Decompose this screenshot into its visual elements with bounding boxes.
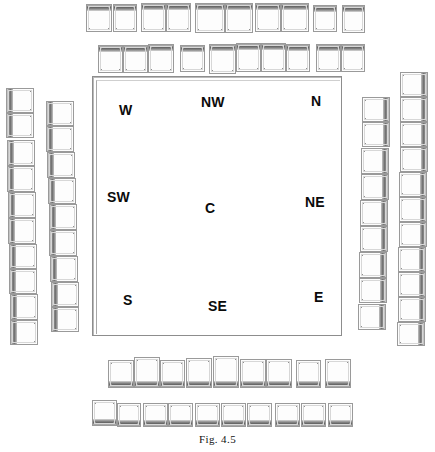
corner-marker [120,423,121,424]
figure-caption: Fig. 4.5 [0,433,435,445]
corner-marker [137,406,138,407]
corner-marker [268,406,269,407]
corner-marker [296,423,297,424]
corner-marker [198,423,199,424]
corner-marker [120,406,121,407]
corner-marker [224,423,225,424]
corner-marker [278,406,279,407]
corner-marker [322,423,323,424]
structure-cell [247,403,272,427]
figure-4-5: WNWNSWCNESSEE Fig. 4.5 [0,0,435,452]
structure-cell [92,400,117,426]
structure-cell [168,403,193,427]
corner-marker [349,423,350,424]
corner-marker [113,422,114,423]
corner-marker [331,423,332,424]
corner-marker [113,403,114,404]
corner-marker [250,423,251,424]
corner-marker [296,406,297,407]
corner-marker [164,406,165,407]
corner-marker [189,406,190,407]
corner-marker [304,406,305,407]
corner-marker [268,423,269,424]
structure-cell [143,403,168,427]
corner-marker [250,406,251,407]
corner-marker [171,423,172,424]
structure-cell [117,403,141,427]
structure-cell [275,403,300,427]
structure-cell [221,403,246,427]
corner-marker [322,406,323,407]
corner-marker [95,422,96,423]
corner-marker [189,423,190,424]
corner-marker [216,406,217,407]
structure-row-bottom-outer [0,0,435,452]
corner-marker [304,423,305,424]
structure-cell [301,403,326,427]
corner-marker [278,423,279,424]
corner-marker [95,403,96,404]
corner-marker [331,406,332,407]
corner-marker [171,406,172,407]
corner-marker [224,406,225,407]
corner-marker [198,406,199,407]
structure-cell [328,403,353,427]
structure-cell [195,403,220,427]
corner-marker [164,423,165,424]
corner-marker [242,423,243,424]
corner-marker [146,423,147,424]
corner-marker [137,423,138,424]
corner-marker [146,406,147,407]
corner-marker [242,406,243,407]
corner-marker [216,423,217,424]
corner-marker [349,406,350,407]
